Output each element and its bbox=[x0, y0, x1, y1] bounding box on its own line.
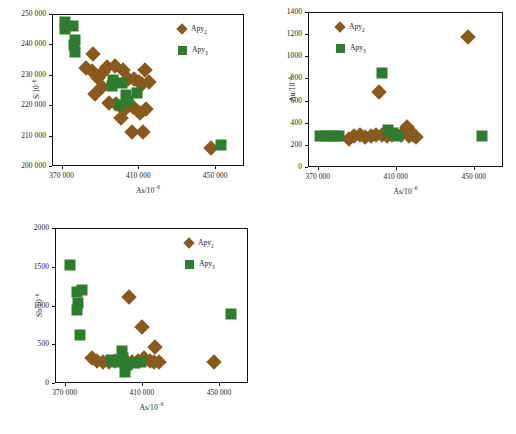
legend-item-apy2[interactable]: Apy2 bbox=[185, 236, 215, 250]
y-axis-tick bbox=[49, 105, 52, 106]
y-axis-tick-label: 0 bbox=[0, 378, 49, 387]
y-axis-tick bbox=[305, 145, 308, 146]
y-axis-tick bbox=[305, 167, 308, 168]
y-axis-tick bbox=[52, 228, 55, 229]
legend-item-label: Apy2 bbox=[198, 238, 214, 249]
y-axis-tick bbox=[52, 267, 55, 268]
legend-item-apy2[interactable]: Apy2 bbox=[336, 20, 366, 34]
legend-item-apy3[interactable]: Apy3 bbox=[178, 43, 208, 57]
data-point-apy3 bbox=[69, 46, 80, 57]
y-axis-tick bbox=[49, 136, 52, 137]
data-point-apy3 bbox=[77, 284, 88, 295]
x-axis-title: As/10−6 bbox=[366, 185, 446, 196]
y-axis-tick bbox=[305, 34, 308, 35]
legend-item-label: Apy3 bbox=[199, 259, 215, 270]
data-point-apy3 bbox=[216, 139, 227, 150]
legend-item-label: Apy2 bbox=[349, 22, 365, 33]
x-axis-tick-label: 410 000 bbox=[112, 388, 172, 397]
legend-item-label: Apy3 bbox=[192, 45, 208, 56]
x-axis-tick-label: 370 000 bbox=[32, 171, 92, 180]
legend-diamond-icon bbox=[334, 21, 345, 32]
y-axis-tick bbox=[49, 166, 52, 167]
legend-item-apy2[interactable]: Apy2 bbox=[178, 22, 208, 36]
y-axis-tick bbox=[305, 56, 308, 57]
data-point-apy2 bbox=[85, 46, 101, 62]
y-axis-tick bbox=[52, 306, 55, 307]
data-point-apy3 bbox=[392, 130, 403, 141]
y-axis-tick bbox=[52, 344, 55, 345]
x-axis-tick-label: 410 000 bbox=[108, 171, 168, 180]
data-point-apy3 bbox=[225, 308, 236, 319]
y-axis-title: Sb/10−6 bbox=[34, 275, 45, 335]
y-axis-tick-label: 210 000 bbox=[0, 131, 46, 140]
data-point-apy3 bbox=[334, 131, 345, 142]
data-point-apy2 bbox=[206, 355, 222, 371]
data-point-apy2 bbox=[134, 320, 150, 336]
data-point-apy3 bbox=[476, 131, 487, 142]
panel-gold-vs-arsenic: 0200400600800100012001400370 000410 0004… bbox=[258, 0, 516, 217]
legend-square-icon bbox=[178, 46, 187, 55]
panel-sulfur-vs-arsenic: 200 000210 000220 000230 000240 000250 0… bbox=[0, 0, 258, 217]
x-axis-tick bbox=[396, 167, 397, 170]
plot-frame bbox=[55, 228, 248, 383]
legend-item-apy3[interactable]: Apy3 bbox=[336, 41, 366, 55]
y-axis-tick-label: 1500 bbox=[0, 262, 49, 271]
x-axis-tick-label: 370 000 bbox=[35, 388, 95, 397]
x-axis-title: As/10−6 bbox=[108, 184, 188, 195]
legend-item-label: Apy3 bbox=[350, 43, 366, 54]
legend: Apy2Apy3 bbox=[336, 20, 366, 62]
x-axis-tick bbox=[138, 166, 139, 169]
x-axis-tick-label: 450 000 bbox=[444, 172, 504, 181]
y-axis-tick-label: 1200 bbox=[258, 29, 302, 38]
legend-diamond-icon bbox=[183, 237, 194, 248]
data-point-apy3 bbox=[114, 99, 125, 110]
y-axis-tick bbox=[52, 383, 55, 384]
y-axis-title: S/10−6 bbox=[31, 59, 42, 119]
data-point-apy3 bbox=[116, 77, 127, 88]
figure-scatter-panels: 200 000210 000220 000230 000240 000250 0… bbox=[0, 0, 516, 434]
y-axis-tick bbox=[305, 12, 308, 13]
x-axis-tick-label: 370 000 bbox=[288, 172, 348, 181]
legend-diamond-icon bbox=[176, 23, 187, 34]
data-point-apy3 bbox=[132, 88, 143, 99]
y-axis-tick bbox=[49, 44, 52, 45]
x-axis-tick bbox=[65, 383, 66, 386]
y-axis-tick-label: 200 000 bbox=[0, 161, 46, 170]
legend-item-apy3[interactable]: Apy3 bbox=[185, 257, 215, 271]
x-axis-tick bbox=[474, 167, 475, 170]
data-point-apy3 bbox=[67, 20, 78, 31]
legend-item-label: Apy2 bbox=[191, 24, 207, 35]
data-point-apy2 bbox=[122, 289, 138, 305]
data-point-apy3 bbox=[65, 260, 76, 271]
legend-square-icon bbox=[336, 44, 345, 53]
x-axis-tick bbox=[142, 383, 143, 386]
y-axis-tick bbox=[305, 78, 308, 79]
y-axis-tick bbox=[49, 14, 52, 15]
legend: Apy2Apy3 bbox=[185, 236, 215, 278]
y-axis-tick-label: 500 bbox=[0, 339, 49, 348]
data-point-apy2 bbox=[135, 125, 151, 141]
plot-area bbox=[53, 15, 243, 165]
data-point-apy3 bbox=[135, 356, 146, 367]
data-point-apy3 bbox=[75, 330, 86, 341]
plot-frame bbox=[52, 14, 244, 166]
legend: Apy2Apy3 bbox=[178, 22, 208, 64]
legend-square-icon bbox=[185, 260, 194, 269]
data-point-apy3 bbox=[119, 366, 130, 377]
x-axis-tick-label: 450 000 bbox=[189, 388, 249, 397]
data-point-apy3 bbox=[106, 354, 117, 365]
x-axis-tick-label: 450 000 bbox=[185, 171, 245, 180]
plot-area bbox=[56, 229, 247, 382]
y-axis-tick-label: 1400 bbox=[258, 7, 302, 16]
x-axis-tick bbox=[215, 166, 216, 169]
x-axis-tick-label: 410 000 bbox=[366, 172, 426, 181]
x-axis-title: As/10−6 bbox=[112, 401, 192, 412]
y-axis-tick-label: 200 bbox=[258, 140, 302, 149]
x-axis-tick bbox=[219, 383, 220, 386]
x-axis-tick bbox=[318, 167, 319, 170]
y-axis-title: Au/10−6 bbox=[287, 59, 298, 119]
x-axis-tick bbox=[62, 166, 63, 169]
y-axis-tick-label: 250 000 bbox=[0, 9, 46, 18]
y-axis-tick-label: 2000 bbox=[0, 223, 49, 232]
data-point-apy2 bbox=[460, 30, 476, 46]
